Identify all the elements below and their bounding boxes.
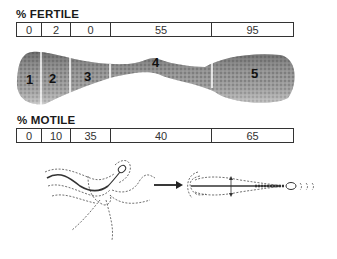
right-arrow-icon <box>154 181 183 189</box>
sperm-motility-illustration <box>0 155 337 255</box>
segment-label-3: 3 <box>84 69 91 84</box>
motile-cell-5: 65 <box>212 129 293 142</box>
mature-sperm-icon <box>188 172 314 198</box>
fertile-cell-2: 2 <box>42 23 71 36</box>
motile-heading: % MOTILE <box>17 114 75 126</box>
motile-cell-1: 0 <box>17 129 42 142</box>
segment-label-2: 2 <box>49 71 56 86</box>
fertile-cell-4: 55 <box>111 23 212 36</box>
segment-label-5: 5 <box>251 66 258 81</box>
fertile-table: 0 2 0 55 95 <box>16 22 294 37</box>
immature-sperm-icon <box>45 160 155 240</box>
fertile-cell-3: 0 <box>71 23 111 36</box>
fertile-cell-5: 95 <box>212 23 293 36</box>
motile-cell-3: 35 <box>71 129 111 142</box>
motile-cell-2: 10 <box>42 129 71 142</box>
fertile-cell-1: 0 <box>17 23 42 36</box>
motile-table: 0 10 35 40 65 <box>16 128 294 143</box>
motile-cell-4: 40 <box>111 129 212 142</box>
fertile-heading: % FERTILE <box>16 8 79 20</box>
segment-label-1: 1 <box>26 72 33 87</box>
segment-label-4: 4 <box>152 55 159 70</box>
